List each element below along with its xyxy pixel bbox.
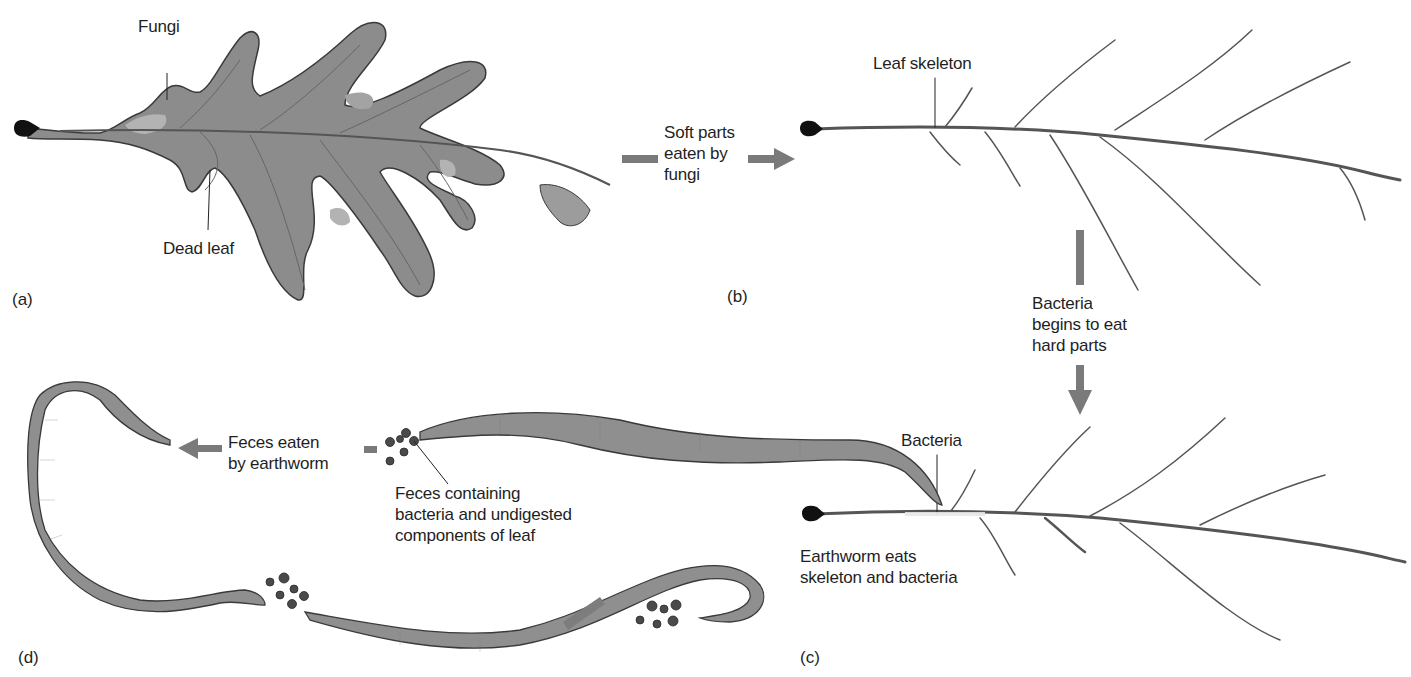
label-bacteria: Bacteria — [901, 430, 962, 451]
label-line: Feces containing — [395, 483, 572, 504]
label-leaf-skeleton: Leaf skeleton — [873, 53, 972, 74]
panel-label-c: (c) — [800, 648, 820, 668]
label-line: skeleton and bacteria — [800, 567, 957, 588]
transition-text-line: Bacteria — [1032, 293, 1127, 314]
decomposition-diagram — [0, 0, 1411, 677]
transition-text-line: begins to eat — [1032, 314, 1127, 335]
panel-label-a: (a) — [12, 290, 33, 310]
transition-a-to-b: Soft parts eaten by fungi — [664, 122, 735, 185]
transition-text-line: hard parts — [1032, 335, 1127, 356]
label-line: bacteria and undigested — [395, 504, 572, 525]
transition-text-line: by earthworm — [228, 453, 329, 474]
label-feces: Feces containing bacteria and undigested… — [395, 483, 572, 546]
transition-text-line: fungi — [664, 164, 735, 185]
label-earthworm-eats: Earthworm eats skeleton and bacteria — [800, 546, 957, 588]
skeleton-with-bacteria-illustration — [815, 418, 1405, 640]
label-line: Earthworm eats — [800, 546, 957, 567]
label-fungi: Fungi — [138, 16, 180, 37]
transition-b-to-c: Bacteria begins to eat hard parts — [1032, 293, 1127, 356]
transition-text-line: Feces eaten — [228, 432, 329, 453]
transition-feces-eaten: Feces eaten by earthworm — [228, 432, 329, 474]
transition-text-line: Soft parts — [664, 122, 735, 143]
panel-label-d: (d) — [18, 648, 39, 668]
label-dead-leaf: Dead leaf — [163, 238, 234, 259]
label-line: components of leaf — [395, 525, 572, 546]
panel-label-b: (b) — [727, 287, 748, 307]
dead-leaf-illustration — [14, 23, 610, 301]
transition-text-line: eaten by — [664, 143, 735, 164]
